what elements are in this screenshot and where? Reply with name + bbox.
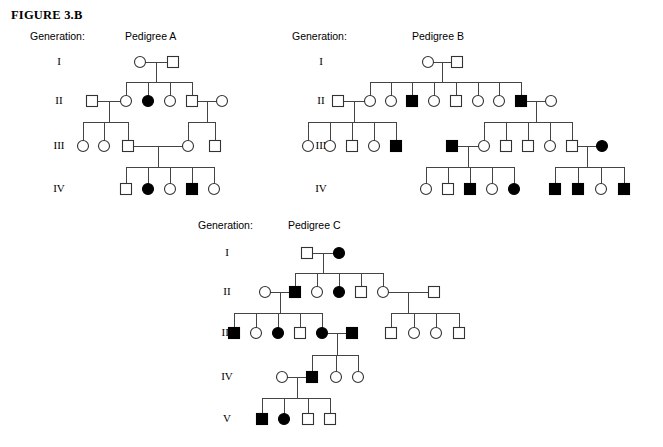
individual-a-iv-5-female-unaffected[interactable] bbox=[209, 184, 220, 195]
individual-b-iv-6-male-affected[interactable] bbox=[550, 184, 561, 195]
individual-b-iv-2-male-unaffected[interactable] bbox=[443, 184, 454, 195]
individual-b-ii-8-female-unaffected[interactable] bbox=[494, 96, 505, 107]
individual-a-i-1-female-unaffected[interactable] bbox=[135, 57, 146, 68]
pedigree-drawing-canvas bbox=[0, 0, 663, 447]
individual-a-ii-4-female-unaffected[interactable] bbox=[165, 96, 176, 107]
individual-b-iii-11-male-unaffected[interactable] bbox=[567, 141, 578, 152]
individual-b-ii-9-male-affected[interactable] bbox=[516, 96, 527, 107]
individual-c-v-2-female-affected[interactable] bbox=[279, 414, 290, 425]
individual-b-iii-9-male-unaffected[interactable] bbox=[523, 141, 534, 152]
individual-c-iii-2-female-unaffected[interactable] bbox=[251, 328, 262, 339]
individual-c-ii-1-female-unaffected[interactable] bbox=[260, 287, 271, 298]
individual-c-v-3-male-unaffected[interactable] bbox=[303, 414, 314, 425]
individual-b-iii-7-female-unaffected[interactable] bbox=[479, 141, 490, 152]
individual-c-iv-3-female-unaffected[interactable] bbox=[331, 372, 342, 383]
individual-b-iii-6-male-affected[interactable] bbox=[447, 141, 458, 152]
individual-b-iii-1-female-unaffected[interactable] bbox=[303, 141, 314, 152]
individual-c-ii-5-male-unaffected[interactable] bbox=[356, 287, 367, 298]
individual-c-ii-6-female-unaffected[interactable] bbox=[378, 287, 389, 298]
individual-c-ii-4-female-affected[interactable] bbox=[334, 287, 345, 298]
individual-c-iii-8-female-unaffected[interactable] bbox=[409, 328, 420, 339]
individual-a-iii-2-female-unaffected[interactable] bbox=[99, 141, 110, 152]
individual-a-iv-3-female-unaffected[interactable] bbox=[165, 184, 176, 195]
individual-a-iii-4-female-unaffected[interactable] bbox=[183, 141, 194, 152]
individual-c-iv-2-male-affected[interactable] bbox=[307, 372, 318, 383]
individual-c-iii-10-male-unaffected[interactable] bbox=[454, 328, 465, 339]
individual-c-iii-7-male-unaffected[interactable] bbox=[386, 328, 397, 339]
individual-b-ii-3-female-unaffected[interactable] bbox=[386, 96, 397, 107]
individual-c-v-1-male-affected[interactable] bbox=[257, 414, 268, 425]
individual-a-iv-2-female-affected[interactable] bbox=[143, 184, 154, 195]
individual-b-ii-4-male-affected[interactable] bbox=[407, 96, 418, 107]
individual-c-iii-4-male-unaffected[interactable] bbox=[295, 328, 306, 339]
individual-b-ii-10-female-unaffected[interactable] bbox=[546, 96, 557, 107]
individual-c-iv-4-female-unaffected[interactable] bbox=[353, 372, 364, 383]
individual-a-iv-1-male-unaffected[interactable] bbox=[121, 184, 132, 195]
individual-c-ii-2-male-affected[interactable] bbox=[290, 287, 301, 298]
individual-a-iii-5-male-unaffected[interactable] bbox=[210, 141, 221, 152]
individual-c-iii-9-female-unaffected[interactable] bbox=[431, 328, 442, 339]
individual-a-ii-3-female-affected[interactable] bbox=[143, 96, 154, 107]
individual-b-iii-8-male-unaffected[interactable] bbox=[501, 141, 512, 152]
individual-c-iii-3-female-affected[interactable] bbox=[273, 328, 284, 339]
individual-c-iii-6-male-affected[interactable] bbox=[347, 328, 358, 339]
individual-b-ii-6-male-unaffected[interactable] bbox=[451, 96, 462, 107]
individual-b-iv-1-female-unaffected[interactable] bbox=[421, 184, 432, 195]
individual-b-ii-2-female-unaffected[interactable] bbox=[365, 96, 376, 107]
individual-a-i-2-male-unaffected[interactable] bbox=[168, 57, 179, 68]
individual-b-iii-2-female-unaffected[interactable] bbox=[325, 141, 336, 152]
individual-b-iv-8-female-unaffected[interactable] bbox=[596, 184, 607, 195]
individual-b-iv-7-male-affected[interactable] bbox=[573, 184, 584, 195]
individual-b-iv-4-female-unaffected[interactable] bbox=[487, 184, 498, 195]
individual-b-iv-3-male-affected[interactable] bbox=[465, 184, 476, 195]
connector-lines-layer bbox=[83, 62, 624, 414]
pedigree-figure-page: FIGURE 3.B Generation: Pedigree A I II I… bbox=[0, 0, 663, 447]
individual-a-iii-3-male-unaffected[interactable] bbox=[123, 141, 134, 152]
individual-c-i-1-male-unaffected[interactable] bbox=[302, 248, 313, 259]
individual-a-ii-5-male-unaffected[interactable] bbox=[187, 96, 198, 107]
individual-c-iv-1-female-unaffected[interactable] bbox=[277, 372, 288, 383]
individual-a-iii-1-female-unaffected[interactable] bbox=[78, 141, 89, 152]
individual-c-ii-3-female-unaffected[interactable] bbox=[312, 287, 323, 298]
individual-b-iii-5-male-affected[interactable] bbox=[391, 141, 402, 152]
individual-b-ii-1-male-unaffected[interactable] bbox=[333, 96, 344, 107]
individual-b-iii-4-female-unaffected[interactable] bbox=[369, 141, 380, 152]
individual-b-ii-5-female-unaffected[interactable] bbox=[429, 96, 440, 107]
individual-b-i-1-female-unaffected[interactable] bbox=[423, 57, 434, 68]
individual-b-iii-12-female-affected[interactable] bbox=[597, 141, 608, 152]
individual-a-ii-6-female-unaffected[interactable] bbox=[217, 96, 228, 107]
individual-c-v-4-male-unaffected[interactable] bbox=[325, 414, 336, 425]
individual-b-iii-10-female-unaffected[interactable] bbox=[545, 141, 556, 152]
individual-c-i-2-female-affected[interactable] bbox=[334, 248, 345, 259]
individual-c-iii-1-male-affected[interactable] bbox=[229, 328, 240, 339]
individual-a-ii-1-male-unaffected[interactable] bbox=[87, 96, 98, 107]
individual-b-iv-9-male-affected[interactable] bbox=[619, 184, 630, 195]
individual-a-iv-4-male-affected[interactable] bbox=[187, 184, 198, 195]
individual-b-ii-7-female-unaffected[interactable] bbox=[473, 96, 484, 107]
individual-c-iii-5-female-affected[interactable] bbox=[317, 328, 328, 339]
individual-b-i-2-male-unaffected[interactable] bbox=[452, 57, 463, 68]
individual-b-iii-3-male-unaffected[interactable] bbox=[347, 141, 358, 152]
individual-c-ii-7-male-unaffected[interactable] bbox=[429, 287, 440, 298]
individual-b-iv-5-female-affected[interactable] bbox=[509, 184, 520, 195]
individual-a-ii-2-female-unaffected[interactable] bbox=[121, 96, 132, 107]
